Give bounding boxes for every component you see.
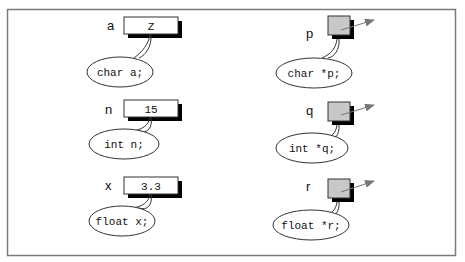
pointer-name-label: p bbox=[306, 26, 313, 41]
declaration-text: char a; bbox=[97, 67, 143, 79]
variable-name-label: n bbox=[105, 102, 112, 117]
variable-x: x 3.3 float x; bbox=[89, 177, 182, 236]
pointer-name-label: q bbox=[306, 103, 313, 118]
bubble-tail bbox=[322, 39, 339, 58]
value-text: 3.3 bbox=[141, 181, 161, 193]
diagram-frame bbox=[8, 10, 456, 256]
variable-name-label: x bbox=[105, 178, 112, 193]
declaration-text: float *r; bbox=[281, 220, 340, 232]
variables-diagram: a Z char a; n 15 int n; x 3.3 float x; p… bbox=[0, 0, 465, 262]
declaration-text: float x; bbox=[96, 216, 149, 228]
declaration-text: int n; bbox=[104, 139, 144, 151]
declaration-text: char *p; bbox=[288, 68, 341, 80]
value-text: 15 bbox=[144, 104, 157, 116]
variable-n: n 15 int n; bbox=[89, 100, 182, 159]
pointer-q: q int *q; bbox=[276, 102, 374, 163]
pointer-box bbox=[328, 16, 350, 35]
pointer-box bbox=[328, 102, 350, 121]
declaration-text: int *q; bbox=[289, 143, 335, 155]
value-text: Z bbox=[148, 21, 155, 33]
variable-name-label: a bbox=[107, 18, 115, 33]
pointer-name-label: r bbox=[306, 179, 311, 194]
pointer-r: r float *r; bbox=[273, 179, 374, 240]
pointer-p: p char *p; bbox=[276, 16, 374, 88]
variable-a: a Z char a; bbox=[87, 17, 182, 87]
pointer-box bbox=[328, 179, 350, 198]
